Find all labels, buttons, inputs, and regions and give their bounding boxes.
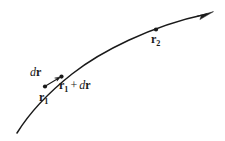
- label-r1-subscript: 1: [44, 97, 48, 106]
- trajectory-arrowhead-icon: [197, 12, 214, 20]
- label-r1: r1: [39, 91, 48, 106]
- vector-path-figure: dr r1 r1+dr r2: [0, 0, 225, 141]
- label-r1-plus-dr-subscript: 1: [64, 85, 68, 94]
- dr-arrow-shaft: [46, 78, 59, 86]
- point-r1-marker: [43, 84, 47, 88]
- label-dr-r: r: [36, 65, 41, 79]
- point-r2-marker: [154, 27, 158, 31]
- label-r2-subscript: 2: [156, 39, 160, 48]
- label-r1-plus-dr-operator: +: [70, 78, 77, 92]
- label-r2: r2: [151, 33, 160, 48]
- trajectory-curve: [17, 14, 207, 133]
- label-dr: dr: [30, 66, 41, 78]
- label-r1-plus-dr: r1+dr: [59, 79, 91, 94]
- label-r1-plus-dr-r2: r: [85, 78, 90, 92]
